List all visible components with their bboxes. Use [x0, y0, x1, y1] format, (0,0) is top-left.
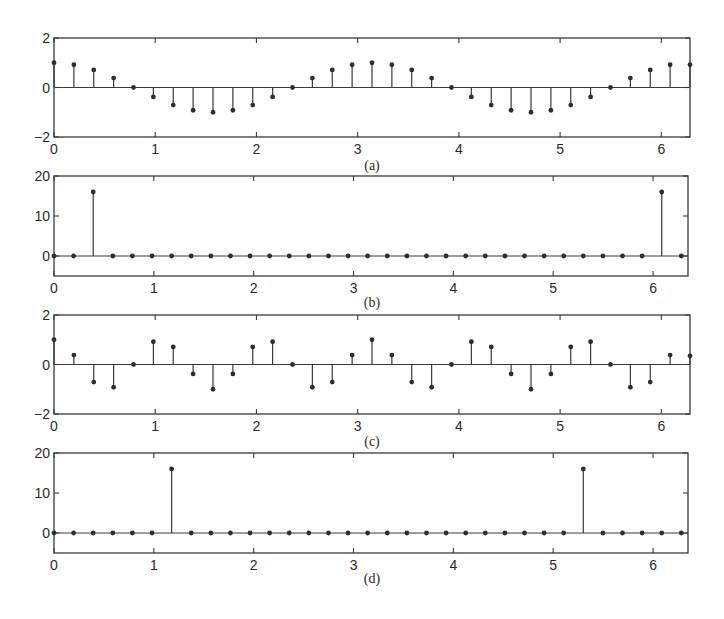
stem-marker: [548, 108, 553, 113]
stem-marker: [542, 531, 547, 536]
stem-marker: [404, 254, 409, 259]
stem-marker: [346, 531, 351, 536]
stem-marker: [211, 110, 216, 115]
y-tick-label: 2: [42, 307, 50, 323]
x-tick-label: 6: [657, 418, 665, 434]
y-tick-label: 0: [42, 80, 50, 96]
stem-marker: [424, 531, 429, 536]
x-tick-label: 2: [253, 418, 261, 434]
x-tick-label: 5: [549, 280, 557, 296]
stem-marker: [522, 531, 527, 536]
panel-b-spectrum: 012345601020: [34, 168, 688, 296]
stem-marker: [111, 385, 116, 390]
stem-marker: [628, 76, 633, 81]
stem-marker: [270, 339, 275, 344]
stem-marker: [502, 254, 507, 259]
x-tick-label: 3: [350, 280, 358, 296]
x-tick-label: 4: [455, 141, 463, 157]
stem-marker: [191, 108, 196, 113]
stem-marker: [568, 345, 573, 350]
stem-marker: [130, 254, 135, 259]
stem-marker: [91, 380, 96, 385]
axes-frame: [54, 453, 688, 553]
stem-plot-figure: 0123456−202 (a) 012345601020 (b) 0123456…: [0, 0, 724, 619]
stem-marker: [110, 254, 115, 259]
x-tick-label: 4: [455, 418, 463, 434]
stem-marker: [389, 62, 394, 67]
stem-marker: [71, 353, 76, 358]
stem-marker: [151, 339, 156, 344]
stem-marker: [561, 531, 566, 536]
panel-d-spectrum: 012345601020: [34, 445, 688, 573]
stem-marker: [370, 337, 375, 342]
stem-marker: [509, 108, 514, 113]
x-tick-label: 4: [449, 280, 457, 296]
stem-marker: [189, 531, 194, 536]
stem-marker: [365, 531, 370, 536]
stem-marker: [668, 353, 673, 358]
stem-marker: [365, 254, 370, 259]
x-tick-label: 0: [50, 418, 58, 434]
stem-marker: [688, 62, 693, 67]
y-tick-label: 10: [34, 208, 50, 224]
stem-marker: [502, 531, 507, 536]
stem-marker: [588, 95, 593, 100]
panel-a-caption: (a): [364, 158, 380, 174]
x-tick-label: 0: [50, 557, 58, 573]
x-tick-label: 3: [354, 141, 362, 157]
y-tick-label: −2: [34, 129, 50, 145]
stem-marker: [171, 345, 176, 350]
stem-marker: [326, 531, 331, 536]
stem-marker: [191, 372, 196, 377]
stem-marker: [131, 362, 136, 367]
stem-marker: [469, 95, 474, 100]
stem-marker: [52, 337, 57, 342]
stem-marker: [509, 372, 514, 377]
stem-marker: [52, 254, 57, 259]
x-tick-label: 1: [150, 280, 158, 296]
stem-marker: [248, 531, 253, 536]
stem-marker: [424, 254, 429, 259]
x-tick-label: 0: [50, 280, 58, 296]
stem-marker: [208, 254, 213, 259]
stem-marker: [250, 345, 255, 350]
stem-marker: [640, 254, 645, 259]
y-tick-label: 20: [34, 168, 50, 184]
y-tick-label: 2: [42, 30, 50, 46]
stem-marker: [581, 254, 586, 259]
x-tick-label: 3: [350, 557, 358, 573]
stem-marker: [489, 345, 494, 350]
stem-marker: [326, 254, 331, 259]
stem-marker: [171, 103, 176, 108]
stem-marker: [228, 531, 233, 536]
stem-marker: [529, 387, 534, 392]
stem-marker: [71, 62, 76, 67]
stem-marker: [522, 254, 527, 259]
stem-marker: [444, 254, 449, 259]
x-tick-label: 6: [649, 557, 657, 573]
x-tick-label: 0: [50, 141, 58, 157]
stem-marker: [444, 531, 449, 536]
stem-marker: [350, 62, 355, 67]
stem-marker: [581, 467, 586, 472]
panel-a-time-signal: 0123456−202: [34, 30, 692, 157]
y-tick-label: −2: [34, 406, 50, 422]
stem-marker: [350, 353, 355, 358]
x-tick-label: 5: [556, 418, 564, 434]
stem-marker: [287, 254, 292, 259]
stem-marker: [389, 353, 394, 358]
stem-marker: [169, 467, 174, 472]
stem-marker: [469, 339, 474, 344]
stem-marker: [110, 531, 115, 536]
stem-marker: [211, 387, 216, 392]
stem-marker: [52, 531, 57, 536]
stem-marker: [228, 254, 233, 259]
stem-marker: [346, 254, 351, 259]
stem-marker: [267, 254, 272, 259]
stem-marker: [290, 85, 295, 90]
panel-d-caption: (d): [364, 571, 381, 587]
stem-marker: [230, 372, 235, 377]
stem-marker: [385, 254, 390, 259]
stem-marker: [640, 531, 645, 536]
x-tick-label: 5: [556, 141, 564, 157]
